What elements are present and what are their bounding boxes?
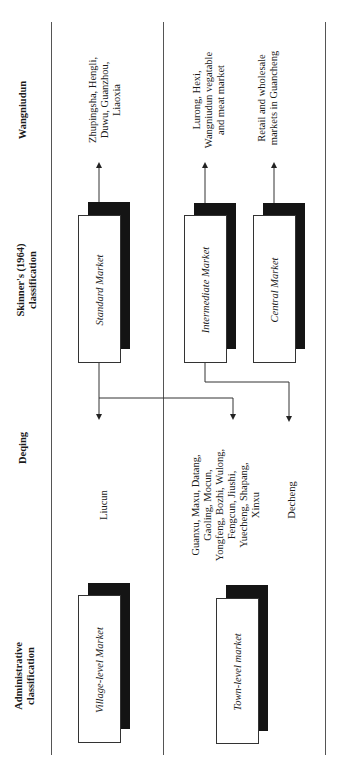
deqing-town-list: Guanxu, Maxu, Datang, Gaoling, Mocun, Yo… bbox=[190, 449, 262, 561]
connector-lines bbox=[0, 0, 339, 782]
standard-market-label: Standard Market bbox=[94, 254, 106, 325]
wangniudun-standard-list: Zhupingsha, Hengli, Duwu, Guanzhou, Liao… bbox=[87, 57, 123, 143]
deqing-liucun: Liucun bbox=[98, 490, 110, 520]
town-market-label: Town-level market bbox=[232, 633, 244, 710]
intermediate-market-box: Intermediate Market bbox=[184, 215, 227, 363]
wangniudun-central-list: Retail and wholesale markets in Guanchen… bbox=[256, 51, 280, 145]
village-market-box: Village-level Market bbox=[78, 595, 121, 743]
village-market-label: Village-level Market bbox=[94, 627, 106, 713]
central-market-box: Central Market bbox=[253, 215, 296, 363]
wangniudun-intermediate-list: Lurong, Hexi, Wangniudun vegatable and m… bbox=[191, 52, 227, 148]
deqing-decheng: Decheng bbox=[286, 481, 298, 518]
standard-market-box: Standard Market bbox=[78, 215, 121, 363]
intermediate-market-label: Intermediate Market bbox=[200, 247, 212, 334]
central-market-label: Central Market bbox=[269, 257, 281, 322]
town-market-box: Town-level market bbox=[216, 598, 259, 744]
